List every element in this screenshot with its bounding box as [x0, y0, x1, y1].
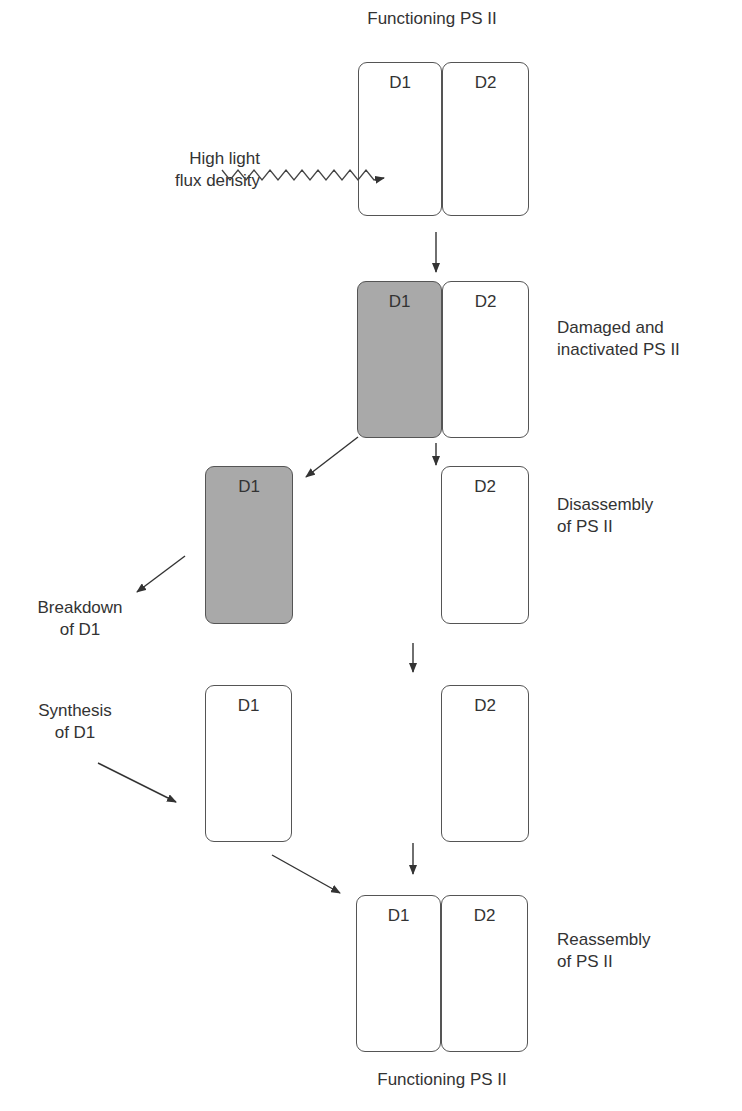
arrows-layer: [0, 0, 742, 1111]
arrow-breakdown-icon: [137, 556, 185, 592]
light-zigzag-icon: [222, 170, 384, 180]
arrow-reassembly-icon: [272, 855, 340, 893]
arrow-synthesis-icon: [98, 763, 176, 802]
arrow-diagonal-icon: [306, 437, 358, 477]
